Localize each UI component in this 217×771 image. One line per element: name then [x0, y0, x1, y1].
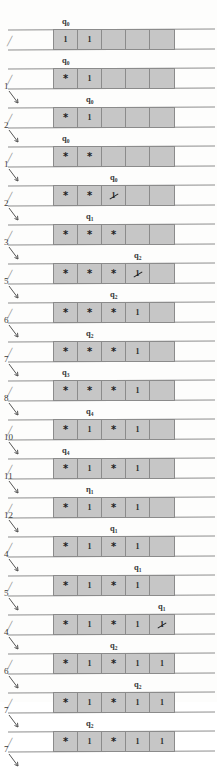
tape: *1*1 — [0, 419, 217, 440]
state-label: q1 — [86, 211, 93, 221]
tape-row: q0**╱1 — [0, 135, 217, 174]
state-subscript: 2 — [91, 333, 94, 339]
tape-cell: 1 — [78, 459, 102, 478]
tape-cell: 1 — [78, 498, 102, 517]
state-label: q4 — [62, 445, 69, 455]
tape: *** — [0, 224, 217, 245]
star-symbol: * — [63, 581, 68, 591]
state-subscript: 4 — [91, 411, 94, 417]
tape-cell — [150, 30, 174, 49]
cell-symbol: 1 — [136, 737, 140, 746]
state-subscript: 1 — [139, 567, 142, 573]
tape-cell: * — [102, 459, 126, 478]
tape-cell: 1 — [150, 693, 174, 712]
tape-cell: 1 — [78, 654, 102, 673]
tape-cell: 1 — [78, 732, 102, 751]
tape-cell: * — [102, 420, 126, 439]
state-subscript: 3 — [67, 372, 70, 378]
tape-cell: 1 — [126, 420, 150, 439]
star-symbol: * — [111, 659, 116, 669]
tape: *1*11 — [0, 614, 217, 635]
star-symbol: * — [111, 581, 116, 591]
tape-row: η1*1*1╱12 — [0, 486, 217, 525]
cell-symbol: 1 — [136, 386, 140, 395]
tape: *1*1 — [0, 575, 217, 596]
star-symbol: * — [87, 152, 92, 162]
tape-row: q2*1*11╱6 — [0, 642, 217, 681]
tape-cell: * — [54, 186, 78, 205]
cell-symbol: 1 — [88, 698, 92, 707]
transition-arrow-icon — [8, 753, 22, 769]
star-symbol: * — [63, 425, 68, 435]
tape-cell: * — [54, 342, 78, 361]
state-subscript: 2 — [139, 255, 142, 261]
tape-cell: 1 — [126, 381, 150, 400]
tape-cell: * — [102, 732, 126, 751]
state-label: q1 — [158, 601, 165, 611]
tape-cell: * — [78, 303, 102, 322]
tape-cell: * — [54, 147, 78, 166]
star-symbol: * — [111, 737, 116, 747]
cell-symbol: 1 — [160, 659, 164, 668]
star-symbol: * — [63, 464, 68, 474]
tape-cells: ***1 — [53, 263, 175, 284]
star-symbol: * — [111, 347, 116, 357]
state-subscript: 2 — [91, 723, 94, 729]
state-subscript: 1 — [115, 528, 118, 534]
tape-row: q0*1╱1 — [0, 57, 217, 96]
tape-cell — [150, 498, 174, 517]
tape-cells: *1*1 — [53, 458, 175, 479]
state-label: q0 — [110, 172, 117, 182]
tape-cell — [150, 459, 174, 478]
tape-cell — [150, 537, 174, 556]
cell-symbol: 1 — [136, 347, 140, 356]
tape-cell: * — [102, 615, 126, 634]
tape-cell: 1 — [78, 30, 102, 49]
tape: *1*1 — [0, 497, 217, 518]
state-subscript: 1 — [163, 606, 166, 612]
state-label: q0 — [86, 94, 93, 104]
cell-symbol: 1 — [136, 308, 140, 317]
tape-row: q1***╱3 — [0, 213, 217, 252]
cell-symbol: 1 — [88, 542, 92, 551]
tape-cell: * — [54, 693, 78, 712]
tape-trace-rows: q011╱q0*1╱1q0*1╱2q0**╱1q0**1╱2q1***╱3q2*… — [0, 18, 217, 759]
tape-row: q2***1╱7 — [0, 330, 217, 369]
cell-symbol: 1 — [88, 737, 92, 746]
star-symbol: * — [87, 191, 92, 201]
tape-cell: * — [102, 342, 126, 361]
tape-cell: * — [78, 147, 102, 166]
tape-cell: 1 — [78, 69, 102, 88]
tape-cell: * — [54, 108, 78, 127]
state-subscript: 4 — [67, 450, 70, 456]
tape-cells: *1*11 — [53, 614, 175, 635]
tape-cell: * — [54, 498, 78, 517]
tape-row: q1*1*1╱5 — [0, 564, 217, 603]
tape-cell: * — [102, 303, 126, 322]
state-subscript: 1 — [91, 216, 94, 222]
tape-row: q1*1*1╱4 — [0, 525, 217, 564]
star-symbol: * — [63, 269, 68, 279]
star-symbol: * — [87, 386, 92, 396]
tape-cell: 1 — [78, 420, 102, 439]
tape: *1*1 — [0, 536, 217, 557]
star-symbol: * — [63, 620, 68, 630]
cell-symbol: 1 — [88, 620, 92, 629]
tape-row: q4*1*1╱11 — [0, 447, 217, 486]
tape-cell — [102, 69, 126, 88]
tape-cell: * — [54, 654, 78, 673]
star-symbol: * — [111, 425, 116, 435]
cell-symbol: 1 — [136, 464, 140, 473]
tape-cells: *1 — [53, 68, 175, 89]
star-symbol: * — [87, 269, 92, 279]
state-label: q2 — [86, 328, 93, 338]
tape: ***1 — [0, 302, 217, 323]
tape-cells: ***1 — [53, 302, 175, 323]
tape-cell: * — [102, 576, 126, 595]
struck-symbol: 1 — [112, 191, 116, 200]
tape-cell: * — [102, 537, 126, 556]
star-symbol: * — [63, 230, 68, 240]
tape: **1 — [0, 185, 217, 206]
tape-cell: * — [102, 498, 126, 517]
struck-symbol: 1 — [160, 620, 164, 629]
